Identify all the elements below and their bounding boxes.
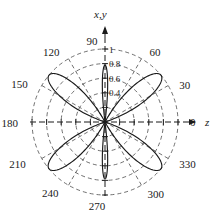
angle-label-300: 300 xyxy=(148,188,165,200)
angle-label-240: 240 xyxy=(42,187,59,199)
angle-label-30: 30 xyxy=(179,79,191,91)
angle-tick-labels: 0306090120150180210240270300330 xyxy=(2,35,197,212)
vertical-axis-label: x,y xyxy=(93,8,107,20)
vertical-axis-arrowhead xyxy=(102,26,108,34)
angle-label-210: 210 xyxy=(9,158,26,170)
angle-label-0: 0 xyxy=(190,116,196,128)
angle-label-60: 60 xyxy=(150,46,162,58)
radial-label-1: 1 xyxy=(109,45,114,55)
angle-label-330: 330 xyxy=(179,158,196,170)
angle-label-120: 120 xyxy=(43,46,60,58)
angle-label-180: 180 xyxy=(2,117,19,129)
grid-spoke-210 xyxy=(42,122,105,159)
polar-plot: 0306090120150180210240270300330 0.40.60.… xyxy=(0,0,220,224)
radial-label-0.8: 0.8 xyxy=(109,59,121,69)
grid-spoke-150 xyxy=(42,86,105,123)
radial-label-0.4: 0.4 xyxy=(109,88,121,98)
angle-label-90: 90 xyxy=(87,35,99,47)
angle-label-150: 150 xyxy=(11,78,28,90)
horizontal-axis-label: z xyxy=(204,116,210,128)
angle-label-270: 270 xyxy=(89,200,106,212)
figure-root: 0306090120150180210240270300330 0.40.60.… xyxy=(0,0,220,224)
radial-label-0.6: 0.6 xyxy=(109,74,121,84)
radial-tick-labels: 0.40.60.81 xyxy=(109,45,121,99)
grid-spoke-330 xyxy=(105,122,168,159)
